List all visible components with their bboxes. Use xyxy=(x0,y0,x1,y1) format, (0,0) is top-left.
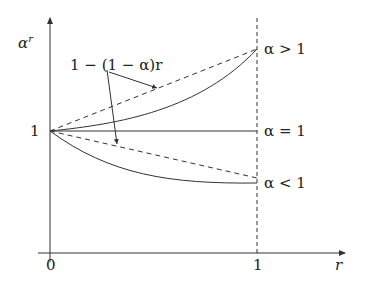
annotation-arrow-upper xyxy=(109,72,157,88)
y-axis-label: αr xyxy=(18,33,34,52)
diagram-canvas: αr 1 0 1 r 1 − (1 − α)r α > 1 α = 1 α < … xyxy=(0,0,382,287)
x-tick-0: 0 xyxy=(46,256,56,274)
label-alpha-gt-1: α > 1 xyxy=(264,40,306,58)
label-alpha-eq-1: α = 1 xyxy=(264,122,306,140)
y-tick-1: 1 xyxy=(30,122,40,140)
curve-alpha-lt-1 xyxy=(50,131,257,183)
x-axis-label: r xyxy=(335,256,343,274)
annotation-label: 1 − (1 − α)r xyxy=(70,56,163,74)
annotation-arrow-lower xyxy=(107,70,117,144)
linear-alpha-lt-1 xyxy=(50,131,257,178)
x-tick-1: 1 xyxy=(253,256,263,274)
label-alpha-lt-1: α < 1 xyxy=(264,174,306,192)
